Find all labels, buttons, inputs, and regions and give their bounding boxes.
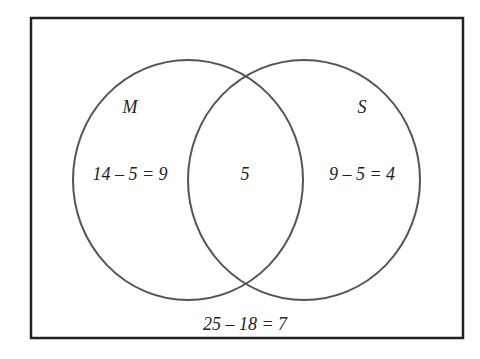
set-label-s: S [358,97,367,117]
set-label-m: M [122,97,139,117]
region-s-only: 9 – 5 = 4 [329,164,395,184]
region-intersection: 5 [241,164,250,184]
region-outside: 25 – 18 = 7 [203,314,288,334]
venn-diagram: M S 14 – 5 = 9 5 9 – 5 = 4 25 – 18 = 7 [0,0,480,359]
region-m-only: 14 – 5 = 9 [92,164,167,184]
